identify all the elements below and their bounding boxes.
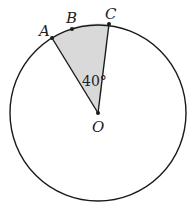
angle-label: 40° bbox=[82, 73, 107, 89]
label-B: B bbox=[65, 9, 77, 27]
label-C: C bbox=[105, 5, 117, 23]
point-O bbox=[96, 111, 100, 115]
shaded-sector bbox=[52, 24, 109, 113]
label-O: O bbox=[92, 118, 104, 136]
circle-diagram: A B C O 40° bbox=[0, 0, 192, 213]
point-B bbox=[70, 27, 74, 31]
label-A: A bbox=[37, 22, 50, 40]
point-A bbox=[50, 36, 54, 40]
